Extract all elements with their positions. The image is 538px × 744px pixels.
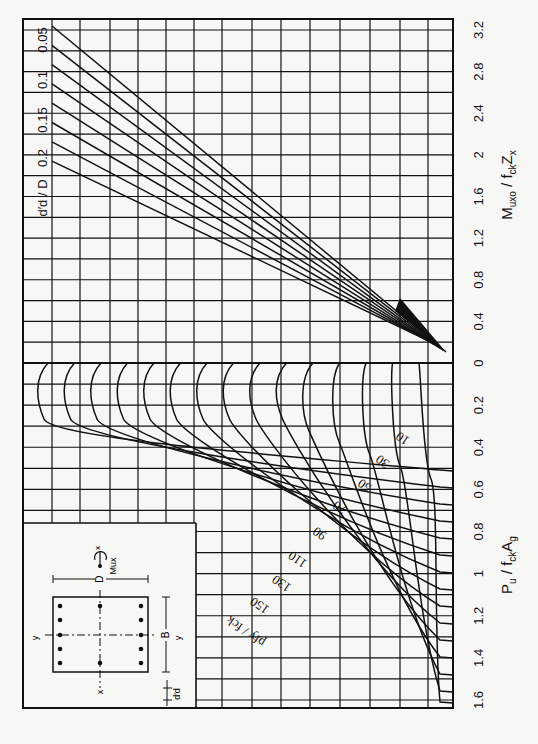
svg-text:y: y bbox=[173, 635, 183, 640]
svg-text:0.8: 0.8 bbox=[471, 522, 486, 540]
svg-text:130: 130 bbox=[269, 572, 294, 595]
svg-text:x: x bbox=[93, 546, 102, 550]
svg-text:1.6: 1.6 bbox=[471, 187, 486, 205]
svg-text:0.15: 0.15 bbox=[35, 107, 50, 132]
svg-text:1.2: 1.2 bbox=[471, 229, 486, 247]
svg-text:0.4: 0.4 bbox=[471, 312, 486, 330]
axial-curves bbox=[38, 363, 453, 703]
svg-text:2.4: 2.4 bbox=[471, 104, 486, 122]
svg-text:0: 0 bbox=[471, 359, 486, 366]
svg-text:1: 1 bbox=[471, 570, 486, 577]
axis-ticks: 00.40.81.21.622.42.83.20.20.40.60.811.21… bbox=[471, 21, 486, 709]
svg-text:0.1: 0.1 bbox=[35, 71, 50, 89]
svg-text:d′d / D: d′d / D bbox=[35, 179, 50, 216]
svg-text:d′d: d′d bbox=[172, 688, 182, 700]
svg-text:0.4: 0.4 bbox=[471, 438, 486, 456]
svg-text:110: 110 bbox=[285, 548, 309, 571]
svg-text:3.2: 3.2 bbox=[471, 21, 486, 39]
svg-text:pfy / fck: pfy / fck bbox=[223, 613, 268, 651]
family-labels: 0.050.10.150.2d′d / D1030507090110130150… bbox=[35, 27, 412, 650]
column-section-inset: yxDByxMuxd′d bbox=[30, 546, 183, 706]
svg-text:0.6: 0.6 bbox=[471, 480, 486, 498]
svg-text:Mux: Mux bbox=[108, 557, 118, 575]
svg-text:y: y bbox=[30, 635, 40, 640]
svg-text:0.05: 0.05 bbox=[35, 27, 50, 52]
svg-text:x: x bbox=[95, 689, 105, 694]
svg-text:1.2: 1.2 bbox=[471, 607, 486, 625]
svg-text:D: D bbox=[94, 575, 105, 582]
svg-text:Muxo / fckZx: Muxo / fckZx bbox=[498, 150, 518, 219]
axis-titles: Muxo / fckZxPu / fckAg bbox=[498, 150, 518, 594]
svg-text:2.8: 2.8 bbox=[471, 63, 486, 81]
svg-text:0.8: 0.8 bbox=[471, 271, 486, 289]
svg-text:0.2: 0.2 bbox=[35, 149, 50, 167]
svg-text:1.6: 1.6 bbox=[471, 691, 486, 709]
svg-text:1.4: 1.4 bbox=[471, 649, 486, 667]
interaction-chart: 00.40.81.21.622.42.83.20.20.40.60.811.21… bbox=[0, 0, 538, 744]
moment-lines bbox=[52, 26, 446, 352]
svg-text:Pu / fckAg: Pu / fckAg bbox=[498, 536, 518, 594]
svg-text:2: 2 bbox=[471, 151, 486, 158]
svg-text:90: 90 bbox=[310, 524, 329, 544]
chart-grid bbox=[23, 19, 453, 708]
svg-text:0.2: 0.2 bbox=[471, 396, 486, 414]
svg-text:150: 150 bbox=[247, 594, 272, 617]
svg-text:B: B bbox=[160, 631, 171, 638]
